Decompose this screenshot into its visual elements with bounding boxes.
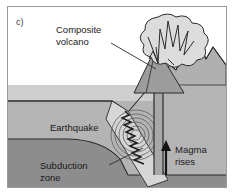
earthquake-label: Earthquake [50, 122, 99, 133]
figure-stage: c) Composite volcano Earthquake Subducti… [0, 0, 232, 195]
panel-label: c) [16, 17, 24, 27]
composite-volcano-label-line1: Composite [56, 24, 101, 35]
figure-panel: c) Composite volcano Earthquake Subducti… [7, 6, 227, 188]
subduction-zone-label-line2: zone [40, 172, 61, 183]
subduction-zone-label-line1: Subduction [40, 160, 88, 171]
cross-section-svg: c) Composite volcano Earthquake Subducti… [8, 7, 226, 187]
magma-rises-label-line2: rises [175, 156, 195, 167]
magma-rises-label-line1: Magma [175, 144, 207, 155]
composite-volcano-label-line2: volcano [56, 36, 89, 47]
